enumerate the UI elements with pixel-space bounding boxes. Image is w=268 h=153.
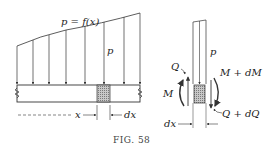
beam	[17, 85, 140, 102]
figure-caption: FIG. 58	[113, 135, 150, 145]
free-body-element	[194, 85, 205, 103]
element-load-label: p	[210, 46, 217, 57]
left-moment-arc	[180, 80, 184, 106]
right-moment-label: M + dM	[219, 67, 262, 78]
position-x-label: x	[75, 109, 81, 120]
beam-element	[97, 85, 110, 102]
element-diagram: p Q M M + dM Q + dQ dx	[162, 20, 262, 129]
x-dimension	[18, 105, 122, 120]
fig-58-diagram: p = f(x) p x dx	[0, 0, 268, 153]
left-moment-label: M	[162, 88, 174, 99]
right-shear-label: Q + dQ	[222, 108, 260, 119]
element-dx-label: dx	[124, 109, 136, 120]
element-width-label: dx	[164, 118, 176, 129]
left-shear-label: Q	[171, 61, 179, 72]
beam-diagram: p = f(x) p x dx	[15, 13, 142, 120]
right-moment-arc	[214, 78, 218, 106]
load-function-label: p = f(x)	[61, 16, 99, 27]
load-intensity-label: p	[107, 45, 114, 56]
